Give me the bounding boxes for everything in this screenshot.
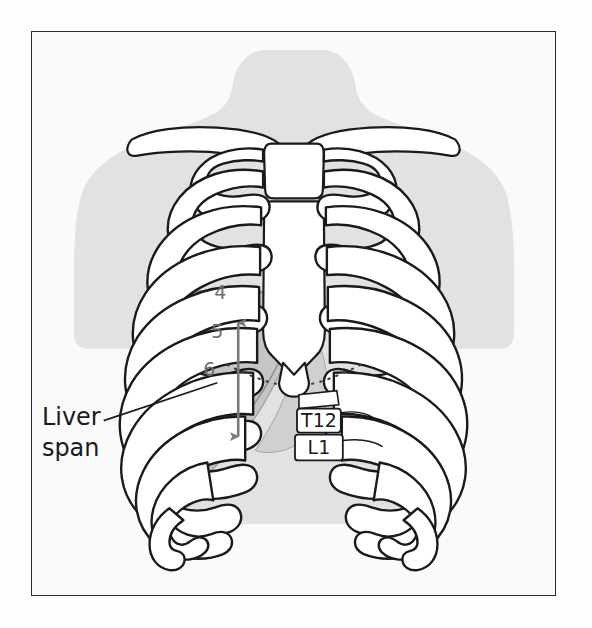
liver-span-label-line2: span	[42, 434, 99, 462]
vertebra-t12-label: T12	[300, 409, 337, 431]
sternum-body	[263, 201, 325, 378]
thorax-illustration: T12 L1 4 5 6 Liver span	[32, 32, 555, 595]
figure-frame: T12 L1 4 5 6 Liver span	[31, 31, 556, 596]
liver-span-label: Liver span	[42, 403, 101, 463]
vertebra-l1-label: L1	[308, 436, 331, 458]
manubrium	[264, 144, 324, 199]
figure-page: T12 L1 4 5 6 Liver span	[0, 0, 592, 628]
vertebra-stack-upper	[299, 391, 339, 409]
rib-6-label: 6	[203, 358, 215, 380]
rib-4-label: 4	[214, 281, 226, 303]
rib-5-label: 5	[211, 320, 223, 342]
liver-span-label-line1: Liver	[42, 403, 101, 431]
